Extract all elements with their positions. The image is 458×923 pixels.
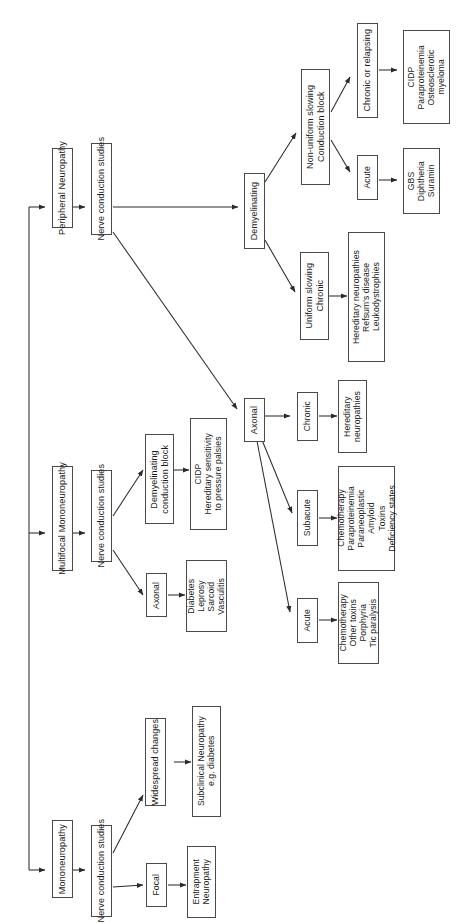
node-diabetes-leprosy-sarcoid-vasculitis[interactable]: Diabetes Leprosy Sarcoid Vasculitis [186, 560, 227, 632]
node-label: Hereditary neuropathies [342, 391, 362, 442]
node-entrapment-neuropathy[interactable]: Entrapment Neuropathy [187, 846, 216, 918]
node-label: Axonal [249, 406, 260, 434]
node-hereditary-neuropathies[interactable]: Hereditary neuropathies [338, 380, 367, 453]
node-peripheral-neuropathy[interactable]: Peripheral Neuropathy [52, 148, 73, 228]
edge-ncsmid-axonalmid [113, 550, 143, 595]
node-uniform-slowing-chronic[interactable]: Uniform slowing Chronic [300, 252, 329, 340]
node-gbs-diphtheria-suramin[interactable]: GBS Diphtheria Suramin [403, 148, 440, 214]
node-demyelinating[interactable]: Demyelinating [244, 173, 265, 249]
node-axonal-acute[interactable]: Acute [297, 598, 318, 643]
node-axonal-main[interactable]: Axonal [244, 398, 265, 442]
flowchart-edges [0, 0, 458, 923]
node-label: Acute [302, 609, 312, 631]
node-label: Hereditary neuropathies Refsum's disease… [351, 250, 381, 344]
node-axonal-chronic[interactable]: Chronic [297, 392, 318, 441]
node-label: Chemotherapy Other toxins Porphyria Tic … [338, 594, 379, 652]
node-label: Subacute [302, 499, 312, 536]
node-label: Non-uniform slowing Conduction block [305, 85, 326, 169]
node-label: CIDP Hereditary sensitivity to pressure … [193, 433, 223, 514]
node-label: Chronic or relapsing [362, 29, 373, 112]
node-label: Widespread changes [150, 719, 161, 805]
node-demyelinating-conduction-block[interactable]: Demyelinating conduction block [145, 434, 174, 524]
node-subclinical-neuropathy[interactable]: Subclinical Neuropathy e.g. diabetes [192, 706, 221, 817]
node-label: Nerve conduction studies [96, 819, 107, 922]
node-widespread-changes[interactable]: Widespread changes [145, 718, 166, 806]
edge-ncs-axonal [113, 232, 237, 409]
node-label: Demyelinating [249, 182, 260, 240]
node-nerve-conduction-studies-mid[interactable]: Nerve conduction studies [91, 470, 112, 562]
node-label: CIDP Paraproteinemia Osteosclerotic myel… [406, 45, 447, 110]
node-acute-demyelinating[interactable]: Acute [357, 155, 378, 200]
node-cidp-hereditary-sensitivity[interactable]: CIDP Hereditary sensitivity to pressure … [190, 418, 227, 530]
node-label: Peripheral Neuropathy [57, 141, 68, 235]
flowchart-canvas: Peripheral Neuropathy Nerve conduction s… [0, 0, 458, 923]
node-label: Subclinical Neuropathy e.g. diabetes [196, 716, 216, 806]
node-non-uniform-slowing-conduction-block[interactable]: Non-uniform slowing Conduction block [301, 69, 330, 185]
edge-axonal-subacute [262, 440, 292, 513]
edge-ncsbot-focal [113, 885, 143, 887]
node-label: Mononeuropathy [57, 824, 68, 894]
node-chemotherapy-paraproteinemia-list[interactable]: Chemotherapy Paraproteinemia Paraneoplas… [338, 466, 395, 571]
node-cidp-paraproteinemia-osteosclerotic-myeloma[interactable]: CIDP Paraproteinemia Osteosclerotic myel… [403, 30, 450, 124]
edge-ncsmid-demyelcb [113, 470, 143, 516]
edge-ncsbot-widespread [113, 795, 143, 853]
node-label: Entrapment Neuropathy [191, 859, 211, 904]
node-label: Nerve conduction studies [96, 464, 107, 567]
node-mononeuropathy[interactable]: Mononeuropathy [52, 820, 73, 898]
node-multifocal-mononeuropathy[interactable]: Multifocal Mononeuropathy [52, 466, 73, 571]
node-label: Demyelinating conduction block [149, 445, 170, 514]
node-chemotherapy-other-toxins-list[interactable]: Chemotherapy Other toxins Porphyria Tic … [338, 582, 379, 664]
node-nerve-conduction-studies-bottom[interactable]: Nerve conduction studies [91, 825, 112, 917]
edge-demyel-nonuniform [265, 133, 296, 182]
node-label: Axonal [151, 582, 161, 609]
node-label: Uniform slowing Chronic [304, 263, 325, 329]
node-hereditary-refsum-leukodystrophies[interactable]: Hereditary neuropathies Refsum's disease… [348, 232, 385, 362]
edge-demyel-uniform [265, 240, 295, 292]
node-axonal-subacute[interactable]: Subacute [297, 490, 318, 546]
node-label: GBS Diphtheria Suramin [406, 161, 436, 201]
node-nerve-conduction-studies-top[interactable]: Nerve conduction studies [91, 143, 112, 235]
edge-nonuniform-chronic [331, 77, 350, 112]
edge-axonal-acute [257, 441, 290, 612]
node-label: Focal [151, 874, 161, 896]
node-label: Diabetes Leprosy Sarcoid Vasculitis [186, 578, 227, 615]
edge-nonuniform-acute [331, 140, 350, 172]
node-focal[interactable]: Focal [146, 863, 167, 907]
node-label: Acute [362, 166, 372, 188]
node-label: Multifocal Mononeuropathy [57, 462, 68, 575]
node-label: Chronic [302, 401, 312, 431]
node-axonal-mid[interactable]: Axonal [146, 573, 167, 617]
node-label: Nerve conduction studies [96, 137, 107, 240]
node-chronic-or-relapsing[interactable]: Chronic or relapsing [357, 23, 378, 118]
node-label: Chemotherapy Paraproteinemia Paraneoplas… [336, 485, 397, 552]
